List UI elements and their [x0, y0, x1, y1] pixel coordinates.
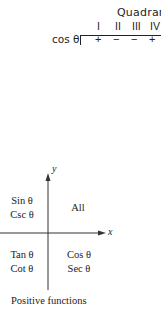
quadrant-3-label: Tan θ Cot θ [6, 248, 38, 276]
y-axis-label: y [52, 163, 56, 174]
diagram-caption: Positive functions [11, 295, 87, 306]
x-axis-arrow-icon [98, 231, 106, 236]
quadrant-2-label: Sin θ Csc θ [6, 194, 38, 222]
quadrant-2-csc: Csc θ [6, 208, 38, 222]
quadrant-4-cos: Cos θ [62, 248, 96, 262]
quadrant-1-label: All [66, 201, 90, 215]
quadrant-3-cot: Cot θ [6, 262, 38, 276]
x-axis-label: x [108, 226, 112, 237]
quadrant-3-tan: Tan θ [6, 248, 38, 262]
quadrant-4-sec: Sec θ [62, 262, 96, 276]
y-axis-arrow-icon [46, 173, 51, 181]
quadrant-1-all: All [66, 201, 90, 215]
quadrant-2-sin: Sin θ [6, 194, 38, 208]
quadrant-4-label: Cos θ Sec θ [62, 248, 96, 276]
